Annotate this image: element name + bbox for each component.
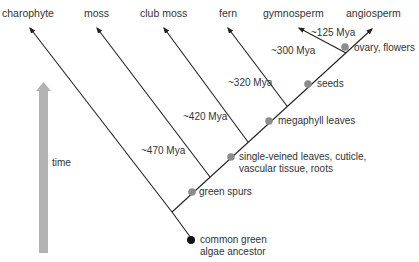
trait-label-seeds: seeds [317, 78, 344, 90]
node-seeds [304, 80, 312, 88]
ancestor-label-line1: common green [200, 234, 267, 246]
divergence-time-125: ~125 Mya [311, 27, 355, 39]
divergence-time-300: ~300 Mya [271, 45, 315, 57]
phylogenetic-tree [0, 0, 419, 262]
taxon-label-angiosperm: angiosperm [346, 7, 401, 19]
divergence-time-420: ~420 Mya [183, 111, 227, 123]
trait-label-ovary: ovary, flowers [354, 42, 415, 54]
taxon-label-club-moss: club moss [140, 7, 187, 19]
taxon-label-moss: moss [84, 7, 109, 19]
time-arrow-icon [36, 82, 51, 253]
divergence-time-470: ~470 Mya [141, 145, 185, 157]
node-common-ancestor [187, 236, 195, 244]
ancestor-label-line2: algae ancestor [200, 246, 266, 258]
trait-label-vascular-line2: vascular tissue, roots [239, 163, 333, 175]
trait-label-vascular-line1: single-veined leaves, cuticle, [239, 151, 366, 163]
root-stem [172, 212, 191, 238]
divergence-time-320: ~320 Mya [228, 77, 272, 89]
taxon-label-gymnosperm: gymnosperm [263, 7, 324, 19]
branch-charophyte [30, 28, 172, 212]
node-ovary [341, 43, 349, 51]
node-vascular [227, 153, 235, 161]
trait-label-green-spurs: green spurs [199, 186, 252, 198]
trait-label-megaphyll: megaphyll leaves [278, 115, 355, 127]
taxon-label-fern: fern [219, 7, 237, 19]
time-axis-label: time [52, 157, 71, 169]
node-megaphyll [265, 117, 273, 125]
taxon-label-charophyte: charophyte [2, 7, 54, 19]
node-green-spurs [188, 188, 196, 196]
branch-fern [228, 28, 287, 106]
